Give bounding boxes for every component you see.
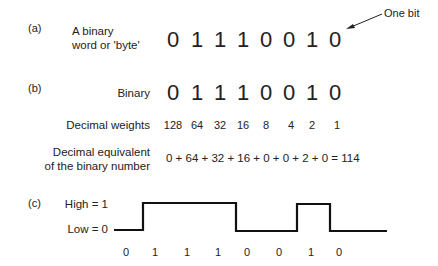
bit: 1: [177, 246, 197, 258]
diagram-graphics: [0, 0, 438, 266]
bit: 1: [145, 246, 165, 258]
bit: 0: [269, 246, 289, 258]
one-bit-arrow: [346, 14, 382, 29]
bit: 1: [208, 246, 228, 258]
bit: 0: [329, 246, 349, 258]
bit: 0: [237, 246, 257, 258]
bit: 1: [301, 246, 321, 258]
bit: 0: [116, 246, 136, 258]
digital-waveform: [114, 203, 387, 231]
